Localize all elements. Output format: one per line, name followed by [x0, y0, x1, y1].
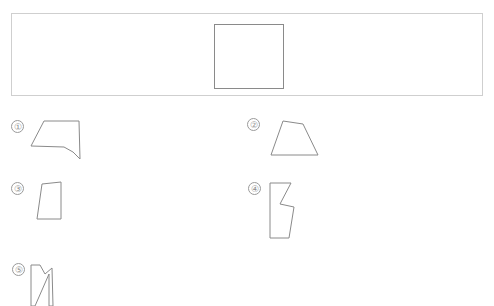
shape-4-figure[interactable] [266, 180, 302, 242]
shape-4-polygon [270, 183, 294, 238]
shape-5-polygon [31, 265, 53, 306]
shape-5-figure[interactable] [26, 260, 58, 306]
shape-5-label: ⑤ [12, 263, 25, 276]
shape-3-label: ③ [11, 182, 24, 195]
shape-1-polygon [31, 121, 80, 159]
shape-2-label: ② [247, 118, 260, 131]
shape-3-polygon [37, 182, 61, 219]
shape-2-figure[interactable] [266, 117, 322, 159]
shape-1-label: ① [11, 120, 24, 133]
banner-target-square[interactable] [214, 24, 284, 89]
answer-banner[interactable] [11, 13, 483, 96]
shape-2-polygon [271, 121, 318, 155]
shape-4-label: ④ [248, 182, 261, 195]
shape-1-figure[interactable] [27, 118, 83, 162]
shape-3-figure[interactable] [33, 180, 69, 224]
